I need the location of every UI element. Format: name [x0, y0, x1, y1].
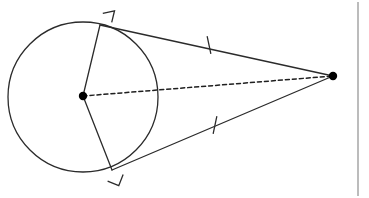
upper-right-angle-mark [103, 11, 115, 23]
geometry-figure-canvas [0, 0, 369, 198]
segments-layer [83, 25, 333, 170]
right-angle-marks-layer [103, 11, 123, 186]
upper-radius-segment [83, 25, 100, 96]
external-point [329, 72, 337, 80]
upper-congruence-tick [207, 37, 211, 54]
upper-tangent-segment [100, 25, 333, 76]
circle-center-point [79, 92, 87, 100]
geometry-diagram-svg [0, 0, 369, 198]
center-to-external-dashed-segment [83, 76, 333, 96]
lower-radius-segment [83, 96, 112, 170]
lower-tangent-segment [112, 76, 333, 170]
lower-right-angle-mark [108, 174, 124, 185]
